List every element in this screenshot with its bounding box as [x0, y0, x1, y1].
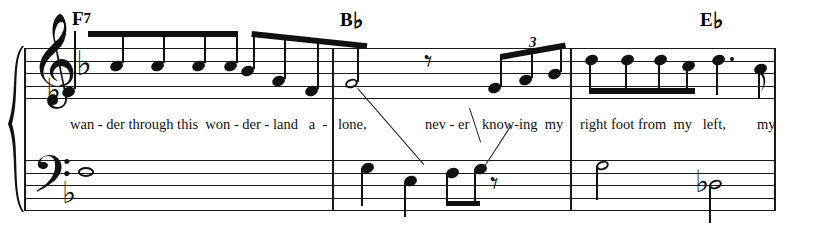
- treble-key-signature-flat: ♭: [76, 47, 92, 81]
- chord-symbol-f7: F7: [72, 8, 91, 30]
- lyrics-row: wan - der through this won - der - land …: [0, 116, 835, 136]
- bass-staff-line-2: [24, 173, 775, 174]
- lyric-phrase: wan - der through this won - der - land …: [70, 116, 327, 133]
- lyric-phrase: my: [757, 116, 776, 133]
- note-stem: [716, 60, 718, 95]
- note-stem: [625, 60, 627, 90]
- note-stem: [531, 49, 533, 78]
- augmentation-dot: [730, 57, 734, 61]
- note-stem: [709, 185, 711, 223]
- accidental-flat-note-1: ♭: [46, 74, 61, 106]
- notehead-whole: [78, 167, 94, 177]
- chord-symbol-bb: B♭: [340, 8, 363, 34]
- note-stem: [253, 33, 255, 69]
- chord-root: E: [700, 9, 713, 30]
- notehead: [711, 53, 726, 66]
- bass-staff-line-5: [24, 210, 775, 211]
- chord-root: B: [340, 9, 353, 30]
- lyric-phrase: lone,: [338, 116, 367, 133]
- bass-staff-line-1: [24, 160, 775, 161]
- note-stem: [236, 31, 238, 63]
- lyric-phrase: right foot from my left,: [580, 116, 726, 133]
- note-stem: [317, 40, 319, 89]
- bass-staff-line-4: [24, 198, 775, 199]
- note-stem: [404, 181, 406, 217]
- note-stem: [122, 31, 124, 63]
- note-stem: [560, 44, 562, 72]
- note-stem: [357, 48, 359, 82]
- note-stem: [589, 60, 591, 90]
- notehead: [620, 53, 635, 66]
- chord-symbol-eb: E♭: [700, 8, 723, 34]
- note-stem: [500, 54, 502, 86]
- eighth-flag-icon: [757, 68, 771, 94]
- chord-root: F: [72, 8, 84, 29]
- note-stem: [361, 168, 363, 206]
- beam-group-3: [589, 88, 695, 94]
- quarter-rest: 𝄾: [490, 167, 499, 199]
- chord-quality: 7: [84, 10, 92, 26]
- lyric-phrase: nev - er: [425, 116, 469, 133]
- note-stem: [284, 36, 286, 79]
- music-score-sheet: 𝄞 𝄢 ♭ ♭ F7 B♭ E♭ ♭ 𝄾 3: [0, 0, 835, 228]
- note-stem: [658, 60, 660, 90]
- quarter-rest: 𝄾: [424, 45, 433, 77]
- note-stem: [596, 166, 598, 200]
- bass-key-signature-flat: ♭: [62, 178, 76, 208]
- treble-staff-line-5: [24, 98, 775, 99]
- lyric-phrase: know-ing my: [482, 116, 563, 133]
- treble-staff-line-3: [24, 73, 775, 74]
- notehead: [584, 53, 599, 66]
- note-stem: [204, 31, 206, 63]
- accidental-flat-bass-note: ♭: [695, 167, 709, 197]
- chord-accidental-flat: ♭: [353, 8, 363, 33]
- notehead: [653, 53, 668, 66]
- beam-group-1: [88, 31, 236, 37]
- note-stem: [163, 31, 165, 63]
- note-stem: [686, 66, 688, 90]
- treble-staff-line-4: [24, 86, 775, 87]
- chord-accidental-flat: ♭: [713, 8, 723, 33]
- note-stem: [74, 31, 76, 89]
- treble-staff-line-1: [24, 48, 775, 49]
- bass-staff-line-3: [24, 185, 775, 186]
- beam-bass-group: [446, 201, 480, 206]
